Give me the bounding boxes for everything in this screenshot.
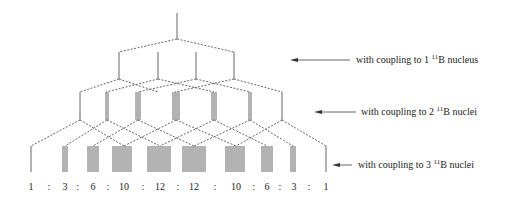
ratio-10: 1: [324, 181, 329, 192]
label-one-nucleus: with coupling to 1 11B nucleus: [356, 53, 478, 65]
label-two-nuclei: with coupling to 2 11B nuclei: [361, 105, 477, 117]
ratio-8: 6: [265, 181, 270, 192]
ratio-3: 6: [91, 181, 96, 192]
ratio-7: 10: [231, 181, 241, 192]
level-2-lines: [80, 92, 282, 120]
arrow-2-head: [314, 110, 322, 114]
label-three-nuclei: with coupling to 3 11B nuclei: [358, 158, 474, 170]
level-1-lines: [119, 52, 234, 79]
ratio-6: 12: [189, 181, 199, 192]
ratio-4: 10: [119, 181, 129, 192]
ratio-9: 3: [292, 181, 297, 192]
ratio-2: 3: [63, 181, 68, 192]
ratio-1: 1: [29, 181, 34, 192]
arrow-1-head: [290, 58, 298, 62]
arrow-3-head: [332, 163, 340, 167]
splitting-tree-diagram: [0, 0, 514, 201]
ratio-5: 12: [155, 181, 165, 192]
level-3-lines: [31, 146, 326, 172]
